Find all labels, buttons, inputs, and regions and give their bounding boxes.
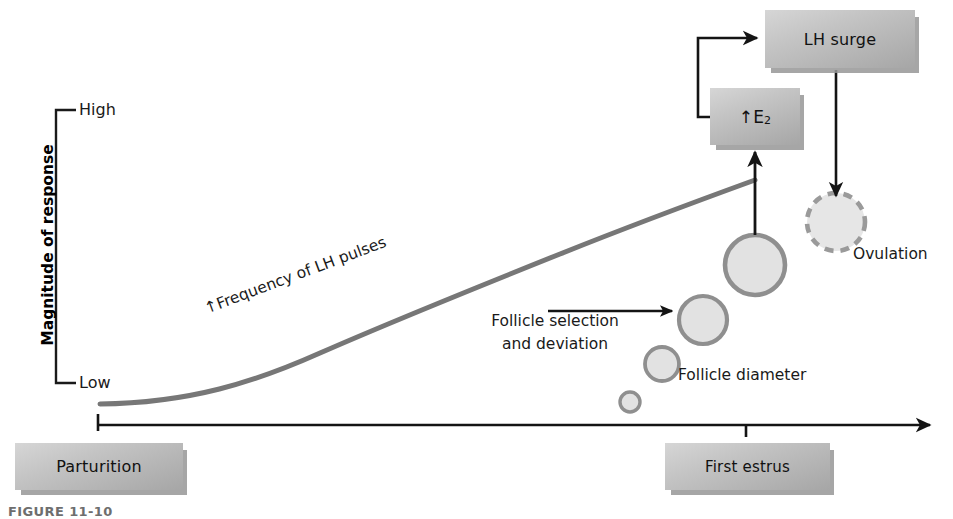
box-estradiol-subscript: 2	[764, 114, 771, 127]
box-first-estrus-label: First estrus	[705, 458, 790, 476]
y-axis-tick-high: High	[79, 100, 116, 119]
label-follicle-selection-line2: and deviation	[502, 335, 608, 353]
y-axis-tick-low: Low	[79, 373, 111, 392]
box-lh-surge-label: LH surge	[804, 30, 876, 49]
label-follicle-selection: Follicle selectionand deviation	[455, 310, 655, 356]
label-follicle-selection-line1: Follicle selection	[491, 312, 619, 330]
x-axis	[97, 414, 930, 437]
box-estradiol-label: ↑E	[739, 107, 764, 127]
y-axis-title: Magnitude of response	[39, 135, 57, 355]
figure-caption: FIGURE 11-10	[8, 504, 113, 519]
y-axis	[56, 110, 76, 383]
figure-container: Magnitude of response High Low ↑Frequenc…	[0, 0, 953, 519]
label-follicle-diameter: Follicle diameter	[678, 366, 806, 384]
follicle-circle-4	[725, 235, 785, 295]
box-first-estrus: First estrus	[665, 443, 830, 490]
diagram-canvas	[0, 0, 953, 519]
follicle-circle-3	[679, 296, 727, 344]
follicle-circle-1	[620, 392, 640, 412]
box-lh-surge: LH surge	[765, 10, 915, 68]
box-parturition: Parturition	[15, 443, 183, 490]
label-ovulation: Ovulation	[853, 245, 928, 263]
ovulation-circle	[807, 193, 865, 251]
box-estradiol: ↑E2	[710, 88, 800, 145]
box-parturition-label: Parturition	[56, 457, 142, 476]
